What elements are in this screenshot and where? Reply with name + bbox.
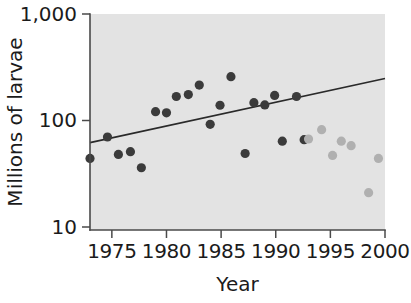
data-point — [184, 90, 193, 99]
x-axis-tick-label: 1985 — [196, 239, 245, 263]
data-point — [249, 98, 258, 107]
data-point — [270, 91, 279, 100]
data-point — [195, 81, 204, 90]
data-point — [103, 132, 112, 141]
data-point — [337, 137, 346, 146]
data-point — [317, 125, 326, 134]
chart-figure: 101001,000 197519801985199019952000 Year… — [0, 0, 411, 303]
data-point — [114, 150, 123, 159]
data-point — [206, 120, 215, 129]
x-axis-ticks — [112, 230, 385, 238]
scatter-chart: 101001,000 197519801985199019952000 Year… — [0, 0, 411, 303]
y-axis-tick-labels: 101001,000 — [20, 2, 77, 239]
data-point — [304, 134, 313, 143]
x-axis-tick-label: 1975 — [87, 239, 136, 263]
data-point — [278, 137, 287, 146]
x-axis-tick-label: 1990 — [251, 239, 300, 263]
data-point — [292, 92, 301, 101]
data-point — [172, 92, 181, 101]
x-axis-title: Year — [215, 272, 259, 296]
data-point — [226, 72, 235, 81]
x-axis-tick-labels: 197519801985199019952000 — [87, 239, 409, 263]
data-point — [260, 100, 269, 109]
x-axis-tick-label: 1980 — [142, 239, 191, 263]
data-point — [374, 154, 383, 163]
plot-area-background — [90, 14, 385, 230]
data-point — [364, 188, 373, 197]
data-point — [328, 151, 337, 160]
y-axis-tick-label: 1,000 — [20, 2, 77, 26]
x-axis-tick-label: 2000 — [360, 239, 409, 263]
data-point — [347, 141, 356, 150]
data-point — [215, 101, 224, 110]
y-axis-tick-label: 100 — [39, 108, 77, 132]
data-point — [241, 149, 250, 158]
data-point — [126, 147, 135, 156]
y-axis-ticks — [82, 14, 90, 227]
y-axis-tick-label: 10 — [52, 215, 77, 239]
data-point — [162, 108, 171, 117]
y-axis-title: Millions of larvae — [3, 37, 27, 206]
data-point — [151, 107, 160, 116]
data-point — [137, 163, 146, 172]
x-axis-tick-label: 1995 — [306, 239, 355, 263]
